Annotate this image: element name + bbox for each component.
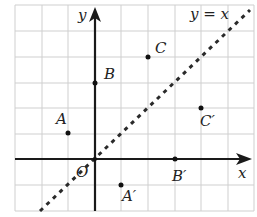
svg-text:A′: A′ (120, 187, 137, 205)
svg-text:A: A (54, 110, 67, 128)
x-axis-label: x (238, 164, 247, 182)
point-C-prime: C′ (199, 106, 216, 131)
axes (15, 7, 252, 211)
point-A-prime: A′ (119, 183, 137, 206)
point-C: C (146, 39, 168, 60)
origin-label: O (76, 163, 88, 181)
mirror-line-label: y = x (189, 5, 230, 23)
svg-text:C′: C′ (200, 112, 215, 130)
svg-text:C: C (155, 39, 167, 57)
coordinate-plane: y x O y = x A B C A′ B′ C′ (0, 0, 257, 217)
point-B-prime: B′ (171, 157, 187, 186)
svg-text:B′: B′ (171, 167, 187, 185)
y-axis-label: y (77, 6, 87, 24)
svg-text:B: B (103, 65, 115, 83)
origin-point (93, 157, 97, 161)
mirror-line-y-equals-x (40, 10, 250, 211)
grid (15, 5, 254, 211)
